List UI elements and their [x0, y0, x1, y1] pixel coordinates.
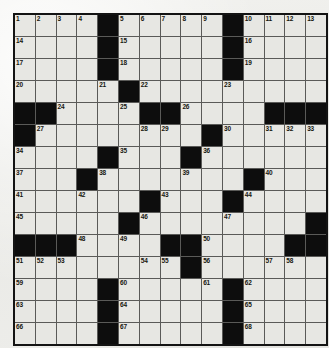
letter-cell[interactable]	[264, 191, 285, 213]
letter-cell[interactable]	[181, 301, 202, 323]
letter-cell[interactable]	[139, 147, 160, 169]
letter-cell[interactable]: 4	[77, 14, 98, 37]
letter-cell[interactable]	[306, 37, 327, 59]
letter-cell[interactable]	[202, 301, 223, 323]
letter-cell[interactable]	[139, 37, 160, 59]
letter-cell[interactable]: 66	[14, 323, 35, 346]
letter-cell[interactable]: 33	[306, 125, 327, 147]
letter-cell[interactable]	[56, 37, 77, 59]
letter-cell[interactable]	[139, 301, 160, 323]
letter-cell[interactable]	[35, 81, 56, 103]
letter-cell[interactable]: 37	[14, 169, 35, 191]
letter-cell[interactable]: 24	[56, 103, 77, 125]
letter-cell[interactable]: 58	[285, 257, 306, 279]
letter-cell[interactable]	[118, 257, 139, 279]
letter-cell[interactable]: 34	[14, 147, 35, 169]
letter-cell[interactable]	[160, 279, 181, 301]
letter-cell[interactable]	[77, 257, 98, 279]
letter-cell[interactable]: 52	[35, 257, 56, 279]
letter-cell[interactable]: 60	[118, 279, 139, 301]
letter-cell[interactable]	[264, 59, 285, 81]
letter-cell[interactable]	[243, 257, 264, 279]
letter-cell[interactable]: 28	[139, 125, 160, 147]
letter-cell[interactable]	[56, 213, 77, 235]
letter-cell[interactable]: 44	[243, 191, 264, 213]
letter-cell[interactable]: 3	[56, 14, 77, 37]
letter-cell[interactable]: 42	[77, 191, 98, 213]
letter-cell[interactable]	[181, 323, 202, 346]
letter-cell[interactable]: 9	[202, 14, 223, 37]
letter-cell[interactable]	[264, 81, 285, 103]
letter-cell[interactable]: 38	[98, 169, 119, 191]
letter-cell[interactable]: 1	[14, 14, 35, 37]
letter-cell[interactable]	[56, 169, 77, 191]
letter-cell[interactable]: 10	[243, 14, 264, 37]
letter-cell[interactable]	[306, 59, 327, 81]
letter-cell[interactable]	[160, 323, 181, 346]
letter-cell[interactable]	[77, 59, 98, 81]
letter-cell[interactable]	[285, 169, 306, 191]
letter-cell[interactable]	[77, 81, 98, 103]
letter-cell[interactable]	[264, 147, 285, 169]
letter-cell[interactable]	[202, 169, 223, 191]
letter-cell[interactable]	[264, 323, 285, 346]
letter-cell[interactable]: 31	[264, 125, 285, 147]
letter-cell[interactable]: 32	[285, 125, 306, 147]
letter-cell[interactable]	[56, 191, 77, 213]
letter-cell[interactable]	[306, 301, 327, 323]
letter-cell[interactable]	[222, 169, 243, 191]
letter-cell[interactable]: 26	[181, 103, 202, 125]
letter-cell[interactable]: 6	[139, 14, 160, 37]
letter-cell[interactable]	[181, 81, 202, 103]
letter-cell[interactable]	[35, 37, 56, 59]
letter-cell[interactable]	[202, 37, 223, 59]
letter-cell[interactable]	[35, 279, 56, 301]
letter-cell[interactable]: 63	[14, 301, 35, 323]
letter-cell[interactable]	[306, 147, 327, 169]
letter-cell[interactable]	[222, 235, 243, 257]
letter-cell[interactable]	[160, 147, 181, 169]
letter-cell[interactable]: 46	[139, 213, 160, 235]
letter-cell[interactable]	[35, 169, 56, 191]
letter-cell[interactable]: 45	[14, 213, 35, 235]
letter-cell[interactable]: 27	[35, 125, 56, 147]
letter-cell[interactable]: 67	[118, 323, 139, 346]
letter-cell[interactable]	[243, 103, 264, 125]
letter-cell[interactable]: 2	[35, 14, 56, 37]
letter-cell[interactable]	[202, 213, 223, 235]
letter-cell[interactable]	[285, 213, 306, 235]
letter-cell[interactable]	[202, 59, 223, 81]
letter-cell[interactable]	[35, 147, 56, 169]
letter-cell[interactable]	[139, 59, 160, 81]
letter-cell[interactable]	[160, 59, 181, 81]
letter-cell[interactable]	[77, 213, 98, 235]
letter-cell[interactable]	[160, 81, 181, 103]
letter-cell[interactable]	[160, 169, 181, 191]
letter-cell[interactable]: 49	[118, 235, 139, 257]
letter-cell[interactable]	[139, 279, 160, 301]
letter-cell[interactable]	[98, 103, 119, 125]
letter-cell[interactable]	[181, 213, 202, 235]
letter-cell[interactable]: 59	[14, 279, 35, 301]
letter-cell[interactable]	[56, 81, 77, 103]
letter-cell[interactable]	[77, 37, 98, 59]
letter-cell[interactable]	[243, 235, 264, 257]
letter-cell[interactable]: 17	[14, 59, 35, 81]
letter-cell[interactable]: 68	[243, 323, 264, 346]
letter-cell[interactable]	[35, 213, 56, 235]
letter-cell[interactable]	[77, 125, 98, 147]
letter-cell[interactable]	[264, 37, 285, 59]
letter-cell[interactable]	[35, 191, 56, 213]
letter-cell[interactable]	[285, 301, 306, 323]
letter-cell[interactable]	[77, 103, 98, 125]
letter-cell[interactable]	[77, 279, 98, 301]
letter-cell[interactable]	[306, 257, 327, 279]
letter-cell[interactable]	[243, 147, 264, 169]
letter-cell[interactable]	[35, 323, 56, 346]
letter-cell[interactable]: 41	[14, 191, 35, 213]
letter-cell[interactable]	[264, 301, 285, 323]
letter-cell[interactable]: 20	[14, 81, 35, 103]
letter-cell[interactable]: 14	[14, 37, 35, 59]
letter-cell[interactable]	[285, 59, 306, 81]
letter-cell[interactable]	[264, 279, 285, 301]
